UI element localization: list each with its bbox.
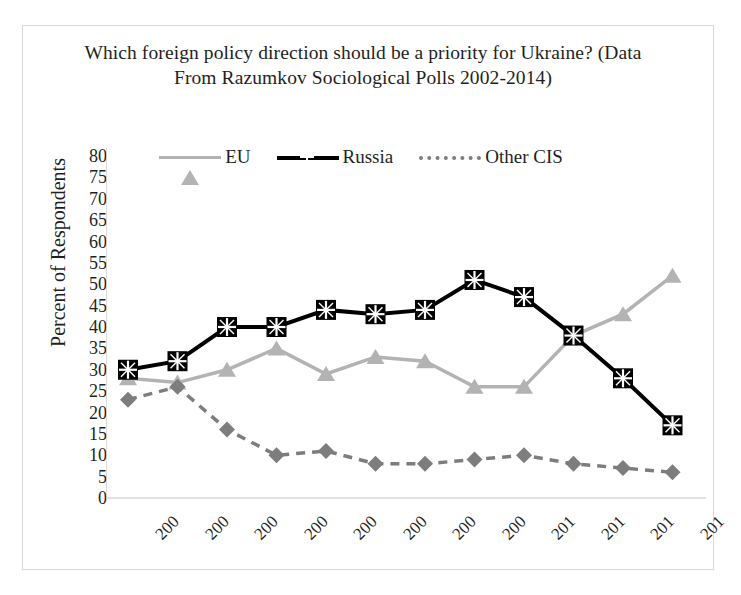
y-tick-label: 50 [67, 275, 107, 293]
y-tick-label: 10 [67, 446, 107, 464]
y-tick-label: 30 [67, 361, 107, 379]
y-tick-label: 35 [67, 339, 107, 357]
chart-figure: Which foreign policy direction should be… [22, 25, 714, 570]
y-tick-label: 75 [67, 168, 107, 186]
y-tick-label: 25 [67, 382, 107, 400]
y-tick-label: 60 [67, 233, 107, 251]
y-tick-label: 20 [67, 404, 107, 422]
plot-area: 200200200200200200200200201201201201 [106, 26, 706, 571]
series-canvas [106, 26, 706, 571]
y-tick-label: 15 [67, 425, 107, 443]
series-eu [119, 268, 682, 394]
y-tick-label: 40 [67, 318, 107, 336]
series-other-cis [120, 379, 681, 481]
y-tick-label: 65 [67, 211, 107, 229]
y-axis-tick-labels: 80757065605550454035302520151050 [65, 26, 107, 571]
y-tick-label: 55 [67, 254, 107, 272]
y-tick-label: 70 [67, 190, 107, 208]
y-tick-label: 45 [67, 297, 107, 315]
y-tick-label: 5 [67, 468, 107, 486]
y-tick-label: 0 [67, 489, 107, 507]
